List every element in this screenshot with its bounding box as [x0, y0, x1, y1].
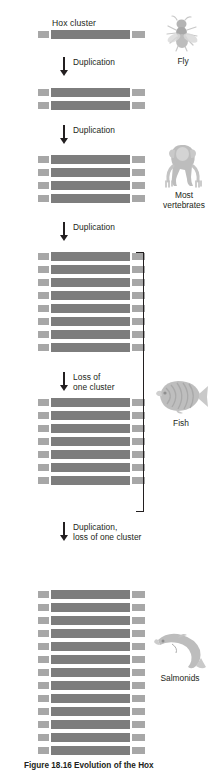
- hox-cluster-bar: [38, 278, 145, 287]
- cluster-left-cap: [38, 669, 49, 676]
- cluster-core: [51, 642, 130, 651]
- cluster-right-cap: [132, 708, 145, 715]
- cluster-core: [51, 343, 130, 352]
- cluster-right-cap: [132, 630, 145, 637]
- organism-label-fish: Fish: [158, 418, 204, 428]
- transition-label: Duplication, loss of one cluster: [69, 522, 141, 542]
- hox-cluster-bar: [38, 155, 145, 164]
- cluster-core: [51, 411, 130, 420]
- cluster-left-cap: [38, 305, 49, 312]
- cluster-right-cap: [132, 721, 145, 728]
- cluster-left-cap: [38, 292, 49, 299]
- cluster-core: [51, 304, 130, 313]
- cluster-core: [51, 655, 130, 664]
- organism-label-fly: Fly: [163, 56, 203, 66]
- cluster-left-cap: [38, 89, 49, 96]
- cluster-core: [51, 291, 130, 300]
- hox-cluster-bar: [38, 424, 145, 433]
- hox-cluster-bar: [38, 668, 145, 677]
- page-title: Hox cluster: [52, 18, 96, 28]
- hox-cluster-bar: [38, 629, 145, 638]
- cluster-core: [51, 265, 130, 274]
- cluster-left-cap: [38, 734, 49, 741]
- hox-cluster-bar: [38, 252, 145, 261]
- cluster-core: [51, 155, 130, 164]
- down-arrow-icon: [60, 522, 69, 542]
- cluster-right-cap: [132, 669, 145, 676]
- organism-label-vertebrates: Most vertebrates: [158, 190, 210, 210]
- hox-cluster-bar: [38, 291, 145, 300]
- hox-cluster-bar: [38, 655, 145, 664]
- cluster-left-cap: [38, 656, 49, 663]
- cluster-core: [51, 101, 130, 110]
- hox-cluster-bar: [38, 181, 145, 190]
- hox-cluster-bar: [38, 168, 145, 177]
- figure-caption: Figure 18.16 Evolution of the Hox: [24, 761, 214, 771]
- transition-label: Duplication: [69, 125, 115, 135]
- cluster-left-cap: [38, 331, 49, 338]
- cluster-right-cap: [132, 682, 145, 689]
- cluster-left-cap: [38, 477, 49, 484]
- fish-icon: [152, 375, 210, 417]
- hox-cluster-bar: [38, 437, 145, 446]
- cluster-left-cap: [38, 591, 49, 598]
- cluster-left-cap: [38, 604, 49, 611]
- cluster-core: [51, 590, 130, 599]
- hox-cluster-bar: [38, 411, 145, 420]
- cluster-left-cap: [38, 425, 49, 432]
- down-arrow-icon: [60, 222, 69, 242]
- hox-cluster-bar: [38, 265, 145, 274]
- down-arrow-icon: [60, 125, 69, 145]
- cluster-right-cap: [132, 604, 145, 611]
- cluster-left-cap: [38, 708, 49, 715]
- cluster-core: [51, 694, 130, 703]
- cluster-right-cap: [132, 169, 145, 176]
- cluster-left-cap: [38, 156, 49, 163]
- cluster-right-cap: [132, 734, 145, 741]
- organism-label-salmonids: Salmonids: [150, 673, 210, 683]
- hox-cluster-bar: [38, 590, 145, 599]
- cluster-left-cap: [38, 721, 49, 728]
- hox-cluster-evolution-figure: Hox cluster Duplication Duplication Dupl…: [0, 0, 216, 771]
- cluster-left-cap: [38, 451, 49, 458]
- hox-cluster-bar: [38, 330, 145, 339]
- hox-cluster-bar: [38, 463, 145, 472]
- cluster-right-cap: [132, 102, 145, 109]
- cluster-left-cap: [38, 399, 49, 406]
- cluster-core: [51, 424, 130, 433]
- transition-t1: Duplication: [60, 57, 115, 77]
- cluster-right-cap: [132, 195, 145, 202]
- cluster-core: [51, 168, 130, 177]
- salmon-icon: [152, 626, 208, 672]
- cluster-left-cap: [38, 747, 49, 754]
- cluster-right-cap: [132, 643, 145, 650]
- hox-cluster-bar: [38, 616, 145, 625]
- transition-label: Duplication: [69, 222, 115, 232]
- cluster-core: [51, 398, 130, 407]
- fish-group-bracket: [136, 252, 144, 512]
- cluster-left-cap: [38, 695, 49, 702]
- cluster-left-cap: [38, 464, 49, 471]
- cluster-left-cap: [38, 31, 49, 38]
- hox-cluster-bar: [38, 720, 145, 729]
- down-arrow-icon: [60, 57, 69, 77]
- hox-cluster-bar: [38, 707, 145, 716]
- hox-cluster-bar: [38, 343, 145, 352]
- fly-icon: [163, 14, 203, 54]
- cluster-core: [51, 707, 130, 716]
- hox-cluster-bar: [38, 681, 145, 690]
- cluster-core: [51, 603, 130, 612]
- cluster-right-cap: [132, 156, 145, 163]
- cluster-core: [51, 30, 130, 39]
- hox-cluster-bar: [38, 603, 145, 612]
- cluster-core: [51, 88, 130, 97]
- cluster-left-cap: [38, 182, 49, 189]
- hox-cluster-bar: [38, 642, 145, 651]
- cluster-right-cap: [132, 747, 145, 754]
- cluster-right-cap: [132, 695, 145, 702]
- cluster-core: [51, 317, 130, 326]
- transition-t3: Duplication: [60, 222, 115, 242]
- cluster-right-cap: [132, 617, 145, 624]
- cluster-left-cap: [38, 344, 49, 351]
- cluster-left-cap: [38, 630, 49, 637]
